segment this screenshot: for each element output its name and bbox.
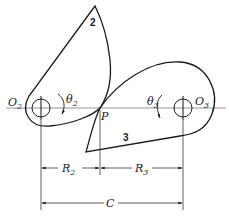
center-o3-label: O3 [195, 95, 209, 110]
dimension-c-label: C [106, 197, 115, 210]
body-3-label: 3 [123, 132, 129, 143]
body-2-label: 2 [90, 17, 96, 28]
rotation-arrow-theta2 [58, 94, 64, 114]
dimension-r2-label: R2 [61, 162, 75, 177]
angle-theta2-label: θ2 [66, 93, 78, 108]
dimension-r3-label: R3 [134, 162, 148, 177]
cam-diagram: 2 3 O2 O3 θ2 θ3 P R2 R3 C [0, 0, 229, 218]
angle-theta3-label: θ3 [147, 95, 159, 110]
contact-point-label: P [100, 110, 109, 123]
center-o2-label: O2 [8, 96, 22, 111]
